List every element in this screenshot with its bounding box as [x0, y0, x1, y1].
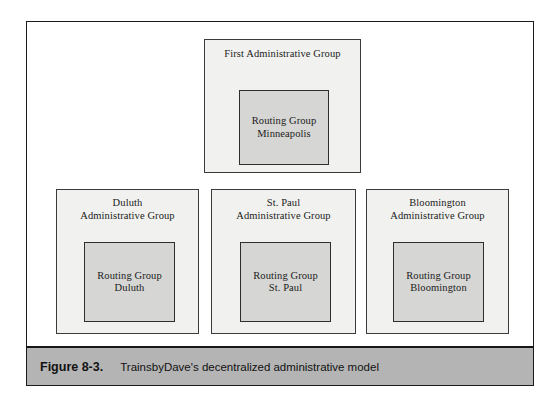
admin-group-duluth[interactable]: Duluth Administrative Group Routing Grou… — [56, 189, 199, 334]
figure-caption-number: Figure 8-3. — [40, 360, 103, 374]
routing-group-st-paul[interactable]: Routing Group St. Paul — [240, 242, 331, 322]
diagram-canvas: First Administrative Group Routing Group… — [27, 22, 533, 346]
admin-group-first[interactable]: First Administrative Group Routing Group… — [204, 39, 361, 173]
admin-group-st-paul-label: St. Paul Administrative Group — [212, 197, 355, 222]
admin-group-bloomington[interactable]: Bloomington Administrative Group Routing… — [366, 189, 509, 334]
routing-group-duluth-label: Routing Group Duluth — [97, 270, 162, 295]
admin-group-first-label: First Administrative Group — [205, 48, 360, 61]
routing-group-bloomington-label: Routing Group Bloomington — [406, 270, 471, 295]
admin-group-bloomington-label: Bloomington Administrative Group — [367, 197, 508, 222]
routing-group-minneapolis[interactable]: Routing Group Minneapolis — [239, 90, 329, 165]
routing-group-minneapolis-label: Routing Group Minneapolis — [252, 115, 317, 140]
routing-group-bloomington[interactable]: Routing Group Bloomington — [393, 242, 484, 322]
admin-group-st-paul[interactable]: St. Paul Administrative Group Routing Gr… — [211, 189, 356, 334]
figure-caption-bar: Figure 8-3. TrainsbyDave's decentralized… — [27, 346, 533, 385]
figure-root: First Administrative Group Routing Group… — [0, 0, 554, 399]
admin-group-duluth-label: Duluth Administrative Group — [57, 197, 198, 222]
figure-caption-text: TrainsbyDave's decentralized administrat… — [120, 361, 379, 373]
figure-frame: First Administrative Group Routing Group… — [26, 21, 534, 386]
routing-group-st-paul-label: Routing Group St. Paul — [253, 270, 318, 295]
routing-group-duluth[interactable]: Routing Group Duluth — [84, 242, 175, 322]
